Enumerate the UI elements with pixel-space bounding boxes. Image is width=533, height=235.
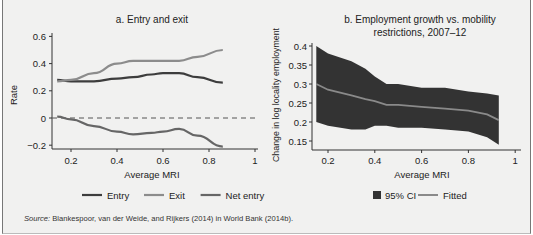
svg-text:1: 1: [513, 155, 518, 166]
panel-a-y-axis: 0.60.40.20−0.2: [27, 31, 52, 151]
svg-text:0: 0: [41, 113, 46, 124]
panel-b: b. Employment growth vs. mobility restri…: [271, 14, 521, 201]
panel-b-title-line1: b. Employment growth vs. mobility: [344, 14, 496, 25]
svg-text:0.2: 0.2: [33, 85, 46, 96]
svg-text:0.8: 0.8: [202, 155, 215, 166]
svg-text:0.2: 0.2: [64, 155, 77, 166]
panel-a-plot-area: [52, 50, 258, 147]
panel-b-x-label: Average MRI: [394, 169, 449, 180]
svg-text:0.3: 0.3: [294, 79, 307, 90]
svg-text:0.6: 0.6: [33, 31, 46, 42]
panel-a-x-axis: 0.20.40.60.81: [52, 149, 258, 166]
svg-text:−0.2: −0.2: [27, 140, 46, 151]
panel-b-x-axis: 0.20.40.60.81: [312, 150, 521, 166]
ci-band: [316, 46, 499, 145]
svg-text:0.2: 0.2: [321, 155, 334, 166]
legend-item-fitted: Fitted: [443, 190, 467, 201]
source-label: Source:: [24, 214, 50, 223]
svg-text:0.4: 0.4: [368, 155, 381, 166]
panel-a-legend: EntryExitNet entry: [82, 190, 264, 201]
source-text: Blankespoor, van der Weide, and Rijkers …: [50, 214, 293, 223]
svg-text:0.6: 0.6: [415, 155, 428, 166]
svg-text:0.6: 0.6: [156, 155, 169, 166]
legend-item-entry: Entry: [107, 190, 129, 201]
figure-canvas: a. Entry and exit 0.60.40.20−0.2 0.20.40…: [0, 0, 533, 235]
svg-text:0.8: 0.8: [462, 155, 475, 166]
line-net-entry: [57, 117, 223, 147]
svg-text:0.4: 0.4: [294, 41, 307, 52]
panel-a-title: a. Entry and exit: [116, 14, 188, 25]
svg-text:0.25: 0.25: [289, 98, 308, 109]
panel-a-y-label: Rate: [8, 85, 19, 105]
legend-item-exit: Exit: [169, 190, 185, 201]
svg-text:0.4: 0.4: [33, 58, 46, 69]
source-note: Source: Blankespoor, van der Weide, and …: [24, 214, 293, 223]
panel-b-y-label: Change in log locality employment: [271, 27, 281, 162]
svg-text:0.35: 0.35: [289, 60, 308, 71]
panel-b-legend: 95% CIFitted: [373, 190, 467, 201]
panel-b-plot-area: [316, 46, 499, 145]
svg-text:0.2: 0.2: [294, 117, 307, 128]
svg-text:1: 1: [252, 155, 257, 166]
panel-a: a. Entry and exit 0.60.40.20−0.2 0.20.40…: [8, 14, 264, 201]
legend-item-95-ci: 95% CI: [385, 190, 416, 201]
legend-item-net-entry: Net entry: [226, 190, 265, 201]
svg-text:0.15: 0.15: [289, 136, 308, 147]
panel-b-y-axis: 0.40.350.30.250.20.15: [289, 41, 313, 151]
panel-b-title-line2: restrictions, 2007–12: [374, 27, 467, 38]
panel-a-x-label: Average MRI: [124, 169, 179, 180]
ci-swatch-icon: [373, 191, 381, 199]
svg-text:0.4: 0.4: [110, 155, 123, 166]
